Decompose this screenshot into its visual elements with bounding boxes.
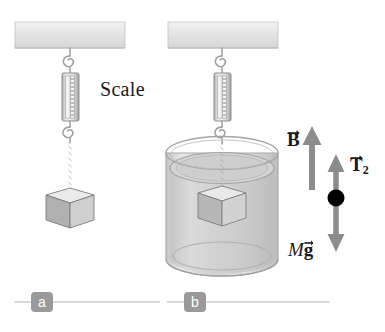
buoyant-force-symbol-wrap: B: [287, 128, 300, 149]
weight-force-label: M g: [288, 238, 313, 259]
buoyant-force-symbol: B: [287, 129, 300, 150]
block-a: [46, 188, 94, 228]
tension-force-label: T 2: [350, 153, 369, 176]
tension-force-subscript: 2: [363, 163, 369, 177]
ceiling-support-a: [15, 22, 125, 48]
tension-force-symbol-wrap: T: [350, 153, 363, 174]
spring-scale-a: [62, 73, 79, 121]
tension-force-symbol: T: [350, 154, 363, 175]
panel-tag-a: a: [31, 292, 53, 312]
scale-label: Scale: [100, 79, 145, 99]
physics-figure: Scale B T 2 M g a b: [0, 0, 385, 332]
mass-symbol: M: [288, 239, 304, 260]
free-body-diagram: [303, 126, 345, 252]
scale-top-hook-a: [63, 48, 73, 73]
particle-dot: [328, 190, 345, 207]
ceiling-support-b: [168, 22, 278, 48]
block-b: [198, 186, 246, 226]
gravity-symbol: g: [304, 239, 314, 260]
panel-b-group: [166, 22, 330, 302]
panel-a-group: [14, 22, 160, 302]
gravity-symbol-wrap: g: [304, 238, 314, 259]
scale-top-hook-b: [215, 48, 225, 73]
panel-tag-b: b: [184, 292, 206, 312]
scale-bottom-hook-a: [63, 121, 73, 143]
buoyant-force-label: B: [287, 128, 300, 149]
scale-bottom-hook-b: [215, 121, 225, 144]
buoyant-force-arrow: [303, 126, 322, 190]
figure-canvas: [0, 0, 385, 332]
hanging-string-b: [220, 144, 223, 188]
spring-scale-b: [214, 73, 231, 121]
hanging-string-a: [68, 143, 71, 190]
